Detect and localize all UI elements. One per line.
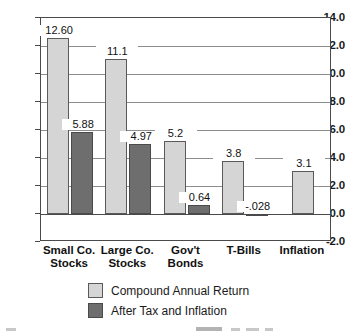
gridline bbox=[41, 74, 330, 75]
bar-value-label: 3.8 bbox=[213, 148, 255, 159]
legend-label: After Tax and Inflation bbox=[111, 304, 227, 318]
bar bbox=[129, 144, 151, 214]
bar bbox=[292, 171, 314, 214]
bar-value-label: 5.88 bbox=[62, 119, 104, 130]
legend-color-swatch bbox=[88, 283, 103, 298]
gridline bbox=[41, 46, 330, 47]
bar-value-label: 12.60 bbox=[38, 25, 80, 36]
bar-value-label: 0.64 bbox=[179, 192, 221, 203]
bar-value-label: 11.1 bbox=[96, 46, 138, 57]
bar-chart: 14.012.010.08.06.04.02.00.0-2.0 12.6011.… bbox=[0, 0, 345, 333]
zero-axis-line bbox=[41, 214, 330, 215]
bar-value-label: 3.1 bbox=[283, 158, 325, 169]
bar bbox=[246, 214, 268, 216]
category-label-line: Bonds bbox=[148, 257, 222, 270]
scan-artifact-strip bbox=[0, 326, 345, 333]
bar bbox=[188, 205, 210, 214]
x-axis-category-label: Inflation bbox=[265, 244, 339, 257]
category-label-line: Inflation bbox=[265, 244, 339, 257]
bar-value-label: 4.97 bbox=[120, 131, 162, 142]
gridline bbox=[41, 102, 330, 103]
bar bbox=[164, 141, 186, 214]
legend-item[interactable]: Compound Annual Return bbox=[88, 283, 318, 298]
chart-legend: Compound Annual ReturnAfter Tax and Infl… bbox=[88, 283, 318, 323]
bar-value-label: -.028 bbox=[237, 201, 279, 212]
y-axis-tick-mark bbox=[35, 241, 40, 242]
legend-item[interactable]: After Tax and Inflation bbox=[88, 303, 318, 318]
legend-label: Compound Annual Return bbox=[111, 284, 249, 298]
legend-color-swatch bbox=[88, 303, 103, 318]
plot-area: 12.6011.15.23.83.15.884.970.64-.028 bbox=[40, 17, 331, 241]
bar bbox=[71, 132, 93, 214]
